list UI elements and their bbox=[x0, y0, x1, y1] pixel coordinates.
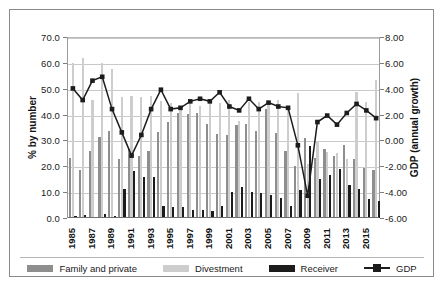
y-axis-left-tick-label: 50.0 bbox=[14, 83, 60, 94]
chart-frame: % by number GDP (annual growth) 0.010.02… bbox=[9, 9, 434, 277]
gdp-marker bbox=[71, 86, 76, 91]
gdp-marker bbox=[344, 111, 349, 116]
gdp-marker bbox=[217, 90, 222, 95]
gdp-marker bbox=[296, 143, 301, 148]
gdp-marker bbox=[139, 133, 144, 138]
x-axis-tick-label-text: 2005 bbox=[262, 228, 273, 249]
gdp-marker bbox=[120, 130, 125, 135]
y-axis-right-tick-label: -6.00 bbox=[385, 213, 431, 224]
legend-item[interactable]: Family and private bbox=[27, 263, 137, 274]
legend-item[interactable]: GDP bbox=[364, 263, 417, 274]
x-axis-tick-label-text: 2009 bbox=[301, 228, 312, 249]
x-axis-tick-label-text: 2003 bbox=[242, 228, 253, 249]
gdp-marker bbox=[178, 106, 183, 111]
gdp-marker bbox=[256, 107, 261, 112]
gdp-line-path bbox=[73, 77, 376, 196]
chart-figure: % by number GDP (annual growth) 0.010.02… bbox=[0, 0, 443, 287]
gdp-marker bbox=[208, 99, 213, 104]
x-axis-tick-label-text: 1985 bbox=[66, 228, 77, 249]
gdp-marker bbox=[198, 96, 203, 101]
legend-item[interactable]: Receiver bbox=[269, 263, 339, 274]
gdp-marker bbox=[276, 104, 281, 109]
y-axis-left-tick-label: 10.0 bbox=[14, 187, 60, 198]
legend-color-swatch bbox=[269, 265, 295, 272]
y-axis-right-tick-label: 2.00 bbox=[385, 109, 431, 120]
gdp-marker bbox=[374, 116, 379, 121]
gdp-marker bbox=[325, 113, 330, 118]
x-axis-tick-label-text: 1995 bbox=[164, 228, 175, 249]
legend-label: GDP bbox=[396, 263, 417, 274]
x-axis-line bbox=[68, 217, 379, 218]
legend-label: Divestment bbox=[195, 263, 243, 274]
x-axis-tick-label-text: 1999 bbox=[203, 228, 214, 249]
y-axis-left-tick-label: 0.0 bbox=[14, 213, 60, 224]
gdp-marker bbox=[227, 104, 232, 109]
gdp-marker bbox=[315, 120, 320, 125]
x-axis-tick-label-text: 1991 bbox=[125, 228, 136, 249]
y-axis-left-title-text: % by number bbox=[27, 96, 38, 159]
y-axis-left-tick-label: 20.0 bbox=[14, 161, 60, 172]
x-axis-tick-label-text: 1997 bbox=[184, 228, 195, 249]
legend-label: Receiver bbox=[301, 263, 339, 274]
gdp-marker bbox=[364, 108, 369, 113]
x-axis-tick-label-text: 1993 bbox=[145, 228, 156, 249]
legend-item[interactable]: Divestment bbox=[163, 263, 243, 274]
gdp-marker bbox=[305, 193, 310, 198]
y-axis-left-tick-label: 60.0 bbox=[14, 57, 60, 68]
x-axis-tick-label-text: 2011 bbox=[321, 228, 332, 249]
gdp-marker bbox=[129, 153, 134, 158]
legend-color-swatch bbox=[27, 265, 53, 272]
gdp-marker bbox=[80, 98, 85, 103]
gdp-marker bbox=[168, 107, 173, 112]
y-axis-right-tick-label: -4.00 bbox=[385, 187, 431, 198]
x-axis-tick-label-text: 2001 bbox=[223, 228, 234, 249]
legend-label: Family and private bbox=[59, 263, 137, 274]
gdp-marker bbox=[159, 87, 164, 92]
gdp-marker bbox=[90, 78, 95, 83]
gdp-marker bbox=[354, 102, 359, 107]
y-axis-left-tick-label: 30.0 bbox=[14, 135, 60, 146]
x-axis-tick-label-text: 2013 bbox=[340, 228, 351, 249]
y-axis-left-tick-label: 40.0 bbox=[14, 109, 60, 120]
gdp-marker bbox=[188, 99, 193, 104]
y-axis-right-tick-label: -2.00 bbox=[385, 161, 431, 172]
gdp-marker bbox=[286, 106, 291, 111]
gdp-marker bbox=[266, 100, 271, 105]
gdp-marker bbox=[100, 74, 105, 79]
gdp-marker bbox=[149, 107, 154, 112]
legend-color-swatch bbox=[163, 265, 189, 272]
gdp-marker bbox=[335, 122, 340, 127]
y-axis-left-tick-label: 70.0 bbox=[14, 32, 60, 43]
gdp-marker bbox=[247, 96, 252, 101]
x-axis-tick-label-text: 2007 bbox=[282, 228, 293, 249]
gdp-marker bbox=[110, 107, 115, 112]
y-axis-right-tick-label: 4.00 bbox=[385, 83, 431, 94]
gdp-marker bbox=[237, 108, 242, 113]
x-axis-tick-label-text: 2015 bbox=[360, 228, 371, 249]
legend-line-swatch bbox=[364, 264, 390, 272]
gdp-line-series bbox=[68, 38, 381, 219]
plot-area bbox=[67, 37, 380, 218]
y-axis-right-tick-label: 0.00 bbox=[385, 135, 431, 146]
x-axis-tick-label-text: 1989 bbox=[106, 228, 117, 249]
y-axis-right-tick-label: 6.00 bbox=[385, 57, 431, 68]
x-axis-tick-label-text: 1987 bbox=[86, 228, 97, 249]
y-axis-right-tick-label: 8.00 bbox=[385, 32, 431, 43]
chart-legend: Family and privateDivestmentReceiverGDP bbox=[20, 257, 424, 278]
